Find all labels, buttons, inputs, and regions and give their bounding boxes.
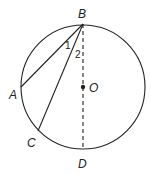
angle-1-label: 1 (65, 40, 71, 51)
chord-bc (38, 24, 83, 131)
angle-2-label: 2 (75, 49, 81, 60)
label-c: C (27, 136, 36, 150)
label-o: O (89, 81, 98, 95)
center-point-o (81, 85, 85, 89)
label-d: D (78, 157, 87, 171)
label-a: A (8, 88, 17, 102)
label-b: B (78, 7, 86, 21)
geometry-diagram: B A C D O 1 2 (0, 0, 151, 173)
